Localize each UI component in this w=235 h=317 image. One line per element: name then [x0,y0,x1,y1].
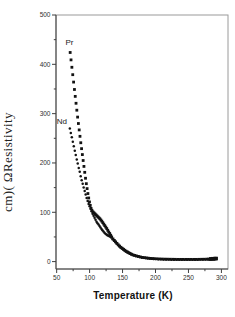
y-tick-label: 0 [47,258,51,265]
data-series-layer [69,51,218,261]
x-tick-label: 150 [117,274,128,281]
data-point-nd [78,171,81,174]
data-point-nd [189,258,192,261]
data-point-pr [83,165,86,168]
data-point-pr [79,141,82,144]
data-point-nd [70,132,73,135]
y-axis-tick-labels: 0100200300400500 [40,11,51,265]
data-point-nd [162,258,165,261]
x-tick-label: 250 [183,274,194,281]
data-point-nd [157,258,160,261]
data-point-nd [170,258,173,261]
pr-series [69,51,218,261]
x-axis-ticks [57,269,222,273]
data-point-nd [196,258,199,261]
data-point-nd [86,200,89,203]
data-point-pr [82,159,85,162]
data-point-nd [79,175,82,178]
data-point-pr [86,192,89,195]
y-tick-label: 400 [40,61,51,68]
data-point-nd [84,193,87,196]
x-tick-label: 50 [53,274,61,281]
data-point-nd [204,258,207,261]
data-point-pr [81,153,84,156]
data-point-nd [83,190,86,193]
data-point-nd [183,258,186,261]
x-tick-label: 100 [84,274,95,281]
resistivity-vs-temperature-chart: 0100200300400500 50100150200250300 PrNd … [0,0,235,317]
data-point-nd [76,162,79,165]
data-point-pr [85,182,88,185]
data-point-nd [202,258,205,261]
y-tick-label: 500 [40,11,51,18]
data-point-nd [160,258,163,261]
data-point-pr [83,171,86,174]
series-label-pr: Pr [66,38,74,47]
data-point-nd [82,186,85,189]
data-point-nd [199,258,202,261]
data-point-pr [84,177,87,180]
x-tick-label: 300 [216,274,227,281]
data-point-nd [76,158,79,161]
data-point-nd [173,258,176,261]
data-point-pr [72,81,75,84]
data-point-nd [181,258,184,261]
series-label-nd: Nd [57,117,67,126]
data-point-pr [69,51,72,54]
data-point-nd [87,203,90,206]
series-annotations: PrNd [57,38,74,126]
x-axis-tick-labels: 50100150200250300 [53,274,227,281]
data-point-nd [72,141,75,144]
data-point-nd [154,258,157,261]
data-point-pr [76,116,79,119]
data-point-pr [70,58,73,61]
data-point-nd [175,258,178,261]
data-point-nd [167,258,170,261]
data-point-pr [80,147,83,150]
data-point-nd [69,127,72,130]
data-point-pr [71,73,74,76]
data-point-nd [80,179,83,182]
y-tick-label: 100 [40,209,51,216]
data-point-pr [79,135,82,138]
data-point-nd [212,257,215,260]
x-tick-label: 200 [150,274,161,281]
data-point-pr [77,122,80,125]
data-point-pr [78,129,81,132]
data-point-nd [71,136,74,139]
data-point-nd [178,258,181,261]
figure-canvas: 0100200300400500 50100150200250300 PrNd … [0,0,235,317]
y-axis-title: cm)( ΩResistivity [0,112,15,212]
data-point-pr [86,187,89,190]
data-point-nd [74,149,77,152]
data-point-nd [88,205,91,208]
data-point-nd [191,258,194,261]
data-point-nd [89,208,92,211]
data-point-pr [75,102,78,105]
data-point-pr [74,95,77,98]
nd-series [69,127,216,261]
data-point-nd [85,197,88,200]
data-point-nd [77,167,80,170]
data-point-nd [194,258,197,261]
data-point-nd [186,258,189,261]
data-point-pr [75,109,78,112]
y-tick-label: 200 [40,159,51,166]
data-point-nd [165,258,168,261]
y-axis-ticks [52,15,56,262]
y-tick-label: 300 [40,110,51,117]
data-point-nd [75,154,78,157]
data-point-nd [81,182,84,185]
x-axis-title: Temperature (K) [93,290,173,301]
data-point-nd [73,145,76,148]
data-point-pr [70,66,73,69]
data-point-nd [90,210,93,213]
data-point-pr [73,88,76,91]
